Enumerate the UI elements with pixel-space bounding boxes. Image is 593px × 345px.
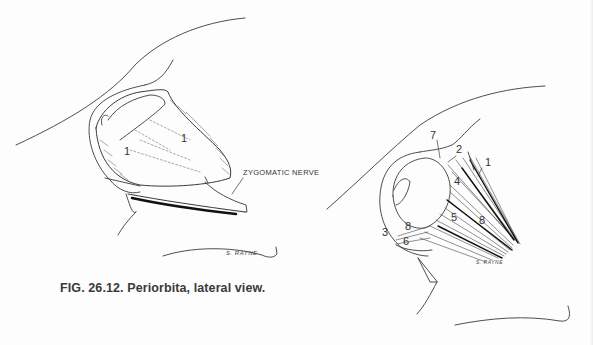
label-4: 4	[454, 176, 460, 187]
label-8b: 8	[405, 221, 411, 232]
label-5: 5	[451, 212, 457, 223]
figure-caption: FIG. 26.12. Periorbita, lateral view.	[60, 281, 265, 295]
label-3: 3	[382, 227, 388, 238]
label-periorbita-1b: 1	[181, 133, 187, 144]
label-7: 7	[430, 130, 436, 141]
figure-page: 1 1 ZYGOMATIC NERVE S. RAYNE 7 2 1 4 5 8…	[0, 0, 593, 345]
artist-signature-right: S. RAYNE	[476, 259, 503, 265]
artist-signature-left: S. RAYNE	[226, 250, 258, 256]
label-8a: 8	[479, 215, 485, 226]
label-2: 2	[456, 144, 462, 155]
zygomatic-nerve-callout: ZYGOMATIC NERVE	[243, 168, 319, 177]
label-6: 6	[403, 236, 409, 247]
page-edge-shadow	[589, 0, 593, 345]
label-periorbita-1a: 1	[124, 146, 130, 157]
label-1: 1	[485, 157, 491, 168]
